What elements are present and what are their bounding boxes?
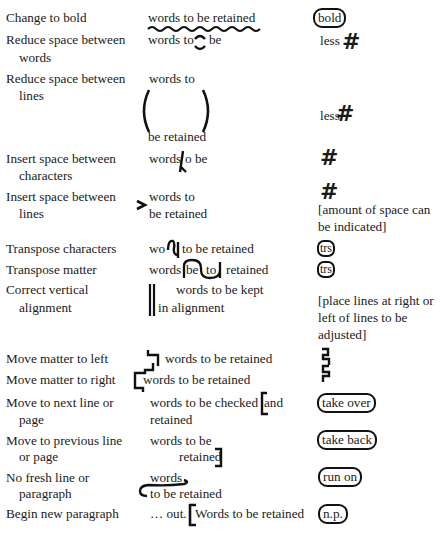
instruction-reduce-lines-2: lines bbox=[6, 88, 44, 103]
take-back-bracket-icon bbox=[214, 446, 224, 468]
example-move-next-b: and bbox=[264, 395, 283, 410]
instruction-move-right: Move matter to right bbox=[6, 372, 116, 387]
space-hash-icon: # bbox=[342, 31, 360, 53]
example-vertical-align-a: words to be kept bbox=[176, 282, 264, 297]
example-new-paragraph-a: … out. bbox=[150, 506, 187, 521]
margin-note-amount-2: be indicated] bbox=[318, 219, 386, 234]
margin-mark-trs-chars: trs bbox=[317, 240, 335, 257]
instruction-reduce-lines-1: Reduce space between bbox=[6, 71, 125, 86]
margin-mark-take-over: take over bbox=[317, 393, 376, 413]
margin-less-words-label: less bbox=[320, 33, 340, 48]
instruction-reduce-words-2: words bbox=[6, 50, 51, 65]
space-hash-icon: # bbox=[320, 147, 338, 169]
example-move-next-a: words to be checked bbox=[150, 395, 258, 410]
margin-note-align-3: adjusted] bbox=[318, 327, 366, 342]
insert-line-space-icon bbox=[136, 199, 147, 211]
instruction-insert-chars-2: characters bbox=[6, 168, 72, 183]
margin-note-align-1: [place lines at right or bbox=[318, 293, 434, 308]
instruction-vertical-align-1: Correct vertical bbox=[6, 282, 88, 297]
instruction-no-fresh-1: No fresh line or bbox=[6, 470, 89, 485]
example-move-next-c: retained bbox=[150, 412, 192, 427]
instruction-move-prev-2: or page bbox=[6, 449, 58, 464]
example-no-fresh-b: to be retained bbox=[150, 486, 222, 501]
close-up-icon bbox=[193, 34, 207, 52]
instruction-move-next-1: Move to next line or bbox=[6, 395, 114, 410]
instruction-vertical-align-2: alignment bbox=[6, 300, 72, 315]
example-move-left-text: words to be retained bbox=[165, 351, 272, 366]
example-bold-text: words to be retained bbox=[148, 10, 255, 25]
example-insert-chars-b: o be bbox=[185, 151, 207, 166]
margin-note-align-2: left of lines to be bbox=[318, 310, 407, 325]
example-move-prev-a: words to be bbox=[150, 433, 212, 448]
example-new-paragraph-b: Words to be retained bbox=[195, 506, 304, 521]
margin-mark-bold: bold bbox=[313, 8, 346, 28]
example-transpose-chars-b: to be retained bbox=[182, 241, 254, 256]
space-hash-icon: # bbox=[336, 103, 354, 125]
instruction-change-to-bold: Change to bold bbox=[6, 10, 87, 25]
margin-mark-trs-matter: trs bbox=[317, 261, 335, 278]
instruction-move-next-2: page bbox=[6, 412, 44, 427]
instruction-insert-lines-2: lines bbox=[6, 206, 44, 221]
instruction-transpose-matter: Transpose matter bbox=[6, 262, 97, 277]
example-reduce-words-a: words to bbox=[148, 32, 194, 47]
transpose-icon bbox=[166, 238, 180, 260]
instruction-move-left: Move matter to left bbox=[6, 351, 108, 366]
instruction-reduce-words-1: Reduce space between bbox=[6, 32, 125, 47]
example-move-right-text: words to be retained bbox=[143, 372, 250, 387]
example-insert-lines-a: words to bbox=[149, 189, 195, 204]
example-reduce-lines-a: words to bbox=[149, 71, 195, 86]
example-transpose-chars-a: wo bbox=[149, 241, 165, 256]
example-vertical-align-b: in alignment bbox=[158, 300, 224, 315]
instruction-new-paragraph: Begin new paragraph bbox=[6, 506, 119, 521]
example-reduce-words-b: be bbox=[209, 32, 221, 47]
margin-mark-take-back: take back bbox=[317, 430, 377, 450]
move-right-margin-icon bbox=[320, 364, 332, 384]
margin-mark-run-on: run on bbox=[318, 467, 362, 487]
example-insert-chars-a: words bbox=[149, 151, 181, 166]
instruction-move-prev-1: Move to previous line bbox=[6, 433, 122, 448]
example-insert-lines-b: be retained bbox=[149, 206, 207, 221]
vertical-align-bars-icon bbox=[148, 283, 156, 317]
instruction-no-fresh-2: paragraph bbox=[6, 486, 72, 501]
example-transpose-matter-a: words bbox=[149, 262, 181, 277]
example-reduce-lines-b: be retained bbox=[148, 129, 206, 144]
margin-mark-new-paragraph: n.p. bbox=[318, 504, 348, 524]
example-transpose-matter-d: retained bbox=[226, 262, 268, 277]
instruction-insert-chars-1: Insert space between bbox=[6, 151, 116, 166]
instruction-transpose-chars: Transpose characters bbox=[6, 241, 116, 256]
close-lines-parens-icon bbox=[140, 88, 215, 134]
instruction-insert-lines-1: Insert space between bbox=[6, 189, 116, 204]
margin-note-amount-1: [amount of space can bbox=[318, 202, 430, 217]
space-hash-icon: # bbox=[320, 181, 338, 203]
transpose-matter-icon bbox=[182, 258, 226, 280]
